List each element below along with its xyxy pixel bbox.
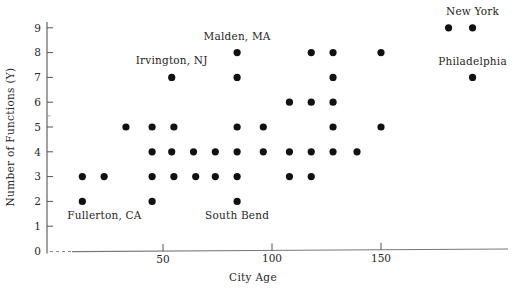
data-point	[377, 123, 384, 130]
data-point	[170, 123, 177, 130]
chart-canvas: 012345678950100150 New YorkPhiladelphiaM…	[0, 0, 520, 297]
data-point	[445, 24, 452, 31]
y-tick-label-3: 3	[34, 170, 41, 182]
data-point	[234, 148, 241, 155]
scatter-chart-figure: 012345678950100150 New YorkPhiladelphiaM…	[0, 0, 520, 297]
data-point	[149, 198, 156, 205]
data-point	[212, 148, 219, 155]
data-point	[308, 148, 315, 155]
data-point	[234, 173, 241, 180]
data-point	[212, 173, 219, 180]
data-point	[260, 123, 267, 130]
data-point	[192, 173, 199, 180]
data-point	[329, 148, 336, 155]
y-axis-title: Number of Functions (Y)	[4, 68, 16, 207]
tick-labels: 012345678950100150	[34, 22, 391, 265]
data-point	[286, 99, 293, 106]
x-tick-label-150: 150	[371, 252, 391, 264]
x-tick-label-50: 50	[156, 253, 169, 265]
data-point	[308, 173, 315, 180]
y-tick-label-5: 5	[34, 121, 41, 133]
data-point	[329, 74, 336, 81]
annotation-label: Fullerton, CA	[67, 209, 141, 221]
y-tick-label-7: 7	[34, 71, 41, 83]
data-point	[234, 123, 241, 130]
annotation-label: Malden, MA	[204, 30, 271, 42]
data-point	[168, 148, 175, 155]
y-tick-label-1: 1	[34, 220, 41, 232]
annotation-label: Irvington, NJ	[136, 54, 208, 66]
y-tick-label-9: 9	[34, 22, 41, 34]
data-point	[122, 123, 129, 130]
data-point	[234, 49, 241, 56]
x-tick-label-100: 100	[262, 252, 282, 264]
data-point	[101, 173, 108, 180]
y-tick-label-0: 0	[34, 245, 41, 257]
data-point	[353, 148, 360, 155]
annotation-label: New York	[446, 5, 499, 17]
x-axis-title: City Age	[229, 271, 277, 283]
data-point	[329, 49, 336, 56]
data-point	[329, 99, 336, 106]
y-tick-label-2: 2	[34, 195, 41, 207]
data-point	[260, 148, 267, 155]
x-axis-line	[72, 249, 508, 252]
point-annotations: New YorkPhiladelphiaMalden, MAIrvington,…	[67, 5, 507, 222]
data-point	[149, 148, 156, 155]
data-point	[286, 148, 293, 155]
data-point	[149, 123, 156, 130]
data-point	[286, 173, 293, 180]
y-tick-label-6: 6	[34, 96, 41, 108]
y-tick-label-4: 4	[34, 146, 41, 158]
data-point	[79, 198, 86, 205]
data-point	[149, 173, 156, 180]
annotation-label: South Bend	[205, 209, 269, 221]
annotation-label: Philadelphia	[438, 55, 507, 67]
data-point	[308, 49, 315, 56]
data-point	[469, 24, 476, 31]
data-point	[469, 74, 476, 81]
y-tick-label-8: 8	[34, 46, 41, 58]
data-point	[79, 173, 86, 180]
data-point	[234, 198, 241, 205]
data-point	[308, 99, 315, 106]
data-point	[234, 74, 241, 81]
data-point	[168, 74, 175, 81]
data-point	[329, 123, 336, 130]
data-points	[79, 24, 476, 205]
data-point	[377, 49, 384, 56]
data-point	[190, 148, 197, 155]
data-point	[170, 173, 177, 180]
